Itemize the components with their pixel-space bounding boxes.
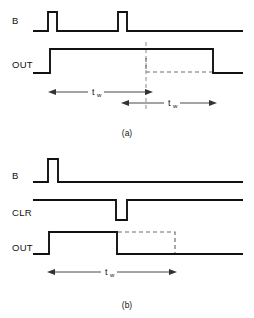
tw-b-subscript: w (109, 272, 115, 278)
tw-b-arrowhead-left (47, 269, 55, 275)
waveform-out-a-untriggered-dashed (146, 58, 212, 72)
tw-first-label: t (92, 87, 95, 97)
tw-first-subscript: w (96, 92, 102, 98)
tw-second-arrowhead-right (209, 100, 217, 106)
measurement-tw-second-a: t w (121, 98, 217, 109)
tw-second-arrowhead-left (121, 100, 129, 106)
signal-label-out-a: OUT (12, 59, 33, 70)
timing-diagram-figure: B OUT t w (0, 0, 254, 318)
waveform-b-b (33, 159, 243, 182)
tw-first-arrowhead-left (48, 89, 56, 95)
panel-caption-b: (b) (122, 300, 133, 310)
panel-b-signal-out: OUT (12, 232, 243, 254)
panel-a-signal-out: OUT (12, 49, 243, 73)
panel-caption-a: (a) (122, 128, 133, 138)
timing-diagram-canvas: B OUT t w (0, 0, 254, 318)
tw-second-label: t (168, 98, 171, 108)
signal-label-b-a: B (12, 15, 19, 26)
panel-b-signal-clr: CLR (12, 200, 243, 220)
signal-label-b-b: B (12, 170, 19, 181)
signal-label-out-b: OUT (12, 242, 33, 253)
waveform-out-a (33, 49, 243, 73)
panel-b: B CLR OUT t w (b (12, 159, 243, 310)
waveform-out-b (33, 232, 243, 254)
waveform-b-a (33, 12, 243, 31)
panel-a-signal-b: B (12, 12, 243, 31)
panel-b-signal-b: B (12, 159, 243, 182)
signal-label-clr-b: CLR (12, 207, 32, 218)
tw-first-arrowhead-right (145, 89, 153, 95)
panel-a: B OUT t w (12, 12, 243, 138)
waveform-out-b-untruncated-dashed (118, 232, 175, 253)
measurement-tw-b: t w (47, 267, 177, 278)
measurement-tw-first-a: t w (48, 87, 153, 98)
tw-b-arrowhead-right (169, 269, 177, 275)
tw-b-label: t (105, 267, 108, 277)
waveform-clr-b (33, 200, 243, 220)
tw-second-subscript: w (172, 103, 178, 109)
